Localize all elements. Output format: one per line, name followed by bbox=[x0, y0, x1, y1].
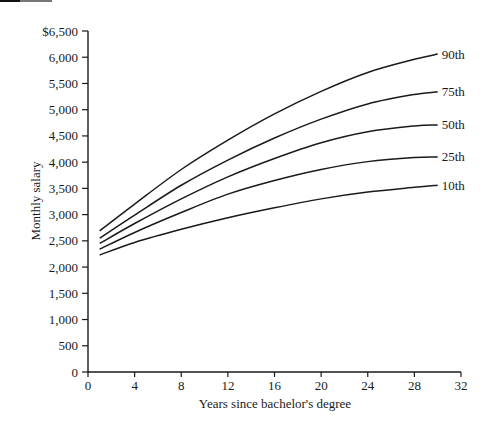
x-tick-label: 4 bbox=[131, 378, 138, 393]
x-axis-title: Years since bachelor's degree bbox=[199, 396, 351, 411]
y-tick-label: 500 bbox=[59, 338, 79, 353]
y-tick-label: 5,500 bbox=[49, 76, 78, 91]
series-label-25th: 25th bbox=[442, 149, 466, 164]
y-tick-label: 2,000 bbox=[49, 260, 78, 275]
y-tick-label: 3,500 bbox=[49, 181, 78, 196]
x-tick-label: 16 bbox=[268, 378, 282, 393]
y-tick-label: 0 bbox=[72, 365, 79, 380]
series-labels: 90th75th50th25th10th bbox=[442, 47, 466, 193]
x-tick-label: 12 bbox=[221, 378, 234, 393]
y-tick-label: 3,000 bbox=[49, 207, 78, 222]
y-tick-label: 1,000 bbox=[49, 312, 78, 327]
series-label-50th: 50th bbox=[442, 117, 466, 132]
x-tick-label: 32 bbox=[455, 378, 468, 393]
y-tick-label: 4,500 bbox=[49, 128, 78, 143]
y-axis-title: Monthly salary bbox=[28, 161, 43, 241]
y-tick-label: 1,500 bbox=[49, 286, 78, 301]
series-label-90th: 90th bbox=[442, 47, 466, 62]
x-tick-label: 20 bbox=[315, 378, 328, 393]
series-line-75th bbox=[100, 92, 438, 238]
series-label-75th: 75th bbox=[442, 84, 466, 99]
series-label-10th: 10th bbox=[442, 178, 466, 193]
y-tick-label: 6,000 bbox=[49, 50, 78, 65]
y-tick-label: $6,500 bbox=[42, 24, 78, 39]
x-tick-label: 24 bbox=[361, 378, 375, 393]
series-line-25th bbox=[100, 157, 438, 249]
x-tick-label: 8 bbox=[178, 378, 185, 393]
y-tick-label: 2,500 bbox=[49, 233, 78, 248]
salary-percentile-chart: 05001,0001,5002,0002,5003,0003,5004,0004… bbox=[0, 0, 491, 433]
series-lines bbox=[100, 54, 438, 255]
y-tick-label: 5,000 bbox=[49, 102, 78, 117]
x-tick-label: 28 bbox=[408, 378, 421, 393]
y-tick-label: 4,000 bbox=[49, 155, 78, 170]
x-axis: 048121620242832 bbox=[85, 372, 468, 393]
x-tick-label: 0 bbox=[85, 378, 92, 393]
y-axis: 05001,0001,5002,0002,5003,0003,5004,0004… bbox=[42, 24, 88, 380]
series-line-10th bbox=[100, 185, 438, 255]
